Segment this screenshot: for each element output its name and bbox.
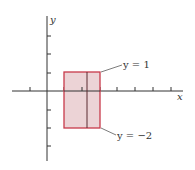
leader-line-bottom: [101, 128, 116, 135]
diagram: y x y = 1 y = −2: [0, 0, 195, 170]
y-axis-label: y: [49, 14, 56, 25]
shaded-region: [64, 72, 100, 128]
leader-line-top: [101, 65, 122, 72]
annotation-y-equals-neg2: y = −2: [116, 130, 152, 141]
annotation-y-equals-1: y = 1: [122, 59, 150, 70]
x-axis-label: x: [177, 91, 183, 102]
